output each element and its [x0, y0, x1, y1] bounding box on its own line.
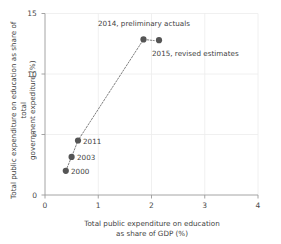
- point-label-2003: 2003: [77, 153, 95, 162]
- point-label-2011: 2011: [83, 137, 101, 146]
- y-tick-marks: [42, 14, 46, 196]
- x-tick-label-2: 2: [144, 201, 160, 210]
- data-point-2014: [140, 36, 146, 42]
- x-axis-title-line-1: Total public expenditure on education: [45, 219, 259, 229]
- point-label-2000: 2000: [71, 167, 89, 176]
- x-tick-label-0: 0: [37, 201, 53, 210]
- series-connector-line: [66, 39, 154, 170]
- y-axis-title: Total public expenditure on education as…: [9, 15, 38, 205]
- x-tick-label-3: 3: [197, 201, 213, 210]
- gridlines-vertical: [98, 14, 258, 196]
- data-point-2011: [75, 137, 81, 143]
- data-point-2015: [156, 37, 162, 43]
- x-axis-title-line-2: as share of GDP (%): [45, 229, 259, 239]
- x-tick-marks: [45, 195, 258, 199]
- chart-figure: 15 10 5 0 0 1 2 3 4 Total public expendi…: [0, 0, 281, 244]
- annotation-2015-revised-estimates: 2015, revised estimates: [152, 49, 239, 58]
- data-point-2003: [69, 154, 75, 160]
- y-axis-title-line-2: government expediture (%): [28, 15, 38, 205]
- annotation-2014-preliminary-actuals: 2014, preliminary actuals: [98, 19, 190, 28]
- x-tick-label-1: 1: [90, 201, 106, 210]
- y-axis-title-line-1: Total public expenditure on education as…: [9, 15, 28, 205]
- data-point-2000: [63, 168, 69, 174]
- x-axis-title: Total public expenditure on education as…: [45, 219, 259, 238]
- x-tick-label-4: 4: [250, 201, 266, 210]
